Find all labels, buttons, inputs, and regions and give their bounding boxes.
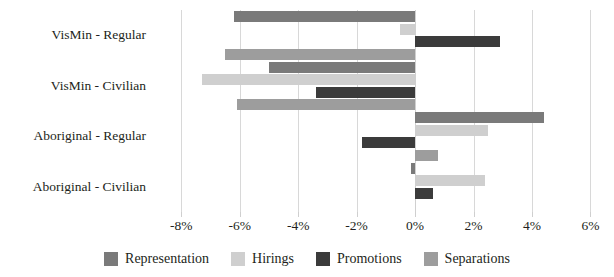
bar bbox=[415, 188, 433, 199]
x-tick-mark bbox=[240, 212, 241, 217]
x-tick-label: -4% bbox=[268, 218, 328, 234]
x-tick-mark bbox=[474, 212, 475, 217]
bar bbox=[269, 62, 415, 73]
legend-item[interactable]: Promotions bbox=[316, 251, 402, 267]
gridline bbox=[532, 10, 533, 212]
legend-swatch-icon bbox=[424, 252, 438, 266]
x-tick-mark bbox=[415, 212, 416, 217]
bar bbox=[415, 150, 438, 161]
bar bbox=[415, 36, 500, 47]
legend-label: Separations bbox=[445, 251, 510, 267]
legend-swatch-icon bbox=[104, 252, 118, 266]
bar bbox=[400, 24, 415, 35]
bar bbox=[415, 125, 488, 136]
bar bbox=[411, 163, 415, 174]
x-tick-label: 6% bbox=[560, 218, 614, 234]
category-label: VisMin - Civilian bbox=[0, 79, 146, 93]
x-tick-label: 0% bbox=[385, 218, 445, 234]
category-label: Aboriginal - Regular bbox=[0, 129, 146, 143]
legend-swatch-icon bbox=[316, 252, 330, 266]
legend-label: Representation bbox=[125, 251, 209, 267]
x-tick-mark bbox=[181, 212, 182, 217]
legend-item[interactable]: Hirings bbox=[231, 251, 294, 267]
x-tick-label: -2% bbox=[327, 218, 387, 234]
bar bbox=[415, 175, 485, 186]
category-label: VisMin - Regular bbox=[0, 28, 146, 42]
gridline bbox=[181, 10, 182, 212]
legend-item[interactable]: Separations bbox=[424, 251, 510, 267]
x-tick-mark bbox=[298, 212, 299, 217]
x-tick-label: -6% bbox=[210, 218, 270, 234]
gridline bbox=[590, 10, 591, 212]
legend-swatch-icon bbox=[231, 252, 245, 266]
bar bbox=[202, 74, 415, 85]
bar bbox=[362, 137, 415, 148]
legend-label: Hirings bbox=[252, 251, 294, 267]
legend-item[interactable]: Representation bbox=[104, 251, 209, 267]
gridline bbox=[357, 10, 358, 212]
x-tick-mark bbox=[532, 212, 533, 217]
bar bbox=[225, 49, 415, 60]
bar bbox=[415, 112, 544, 123]
gridline bbox=[240, 10, 241, 212]
x-tick-mark bbox=[357, 212, 358, 217]
plot-area bbox=[152, 10, 608, 212]
bar bbox=[237, 99, 415, 110]
chart-legend: RepresentationHiringsPromotionsSeparatio… bbox=[0, 246, 614, 272]
bar-chart: VisMin - RegularVisMin - CivilianAborigi… bbox=[0, 0, 614, 277]
x-tick-mark bbox=[590, 212, 591, 217]
bar bbox=[234, 11, 415, 22]
category-axis: VisMin - RegularVisMin - CivilianAborigi… bbox=[0, 0, 152, 212]
category-label: Aboriginal - Civilian bbox=[0, 180, 146, 194]
bar bbox=[316, 87, 415, 98]
legend-label: Promotions bbox=[337, 251, 402, 267]
gridline bbox=[298, 10, 299, 212]
x-tick-label: 2% bbox=[444, 218, 504, 234]
x-tick-label: 4% bbox=[502, 218, 562, 234]
x-axis: -8%-6%-4%-2%0%2%4%6% bbox=[152, 212, 608, 238]
x-tick-label: -8% bbox=[151, 218, 211, 234]
